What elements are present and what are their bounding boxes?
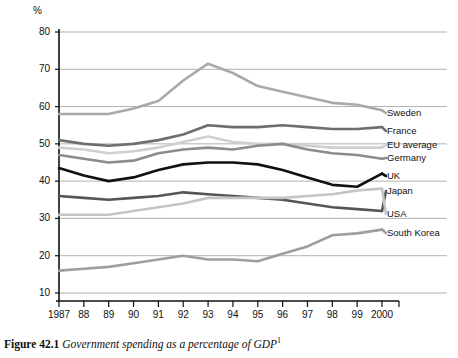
legend-label-uk: UK — [387, 171, 400, 181]
y-axis-tick-label: 50 — [28, 139, 50, 149]
series-line-uk — [59, 163, 382, 187]
legend-leader-germany — [382, 158, 386, 159]
series-line-south-korea — [59, 230, 382, 271]
legend-label-eu-average: EU average — [387, 140, 437, 150]
caption-title-text: Government spending as a percentage of G… — [62, 338, 277, 350]
legend-leader-eu-average — [382, 145, 386, 148]
caption-figure-number: Figure 42.1 — [4, 338, 59, 350]
legend-label-germany: Germany — [387, 153, 426, 163]
chart-plot-area: % 80706050403020101987888990919293949596… — [0, 0, 458, 318]
y-axis-tick-label: 10 — [28, 288, 50, 298]
y-axis-tick-label: 30 — [28, 213, 50, 223]
legend-leader-sweden — [382, 110, 386, 113]
y-axis-tick-label: 60 — [28, 102, 50, 112]
figure-caption: Figure 42.1 Government spending as a per… — [4, 336, 454, 350]
legend-label-sweden: Sweden — [387, 108, 421, 118]
caption-text: Government spending as a percentage of G… — [62, 338, 281, 350]
legend-leader-uk — [382, 174, 386, 176]
legend-label-france: France — [387, 126, 417, 136]
y-axis-tick-label: 20 — [28, 251, 50, 261]
x-axis-tick-label: 2000 — [367, 310, 397, 320]
legend-leader-south-korea — [382, 230, 386, 233]
y-axis-tick-label: 70 — [28, 64, 50, 74]
y-axis-tick-label: 40 — [28, 176, 50, 186]
legend-label-japan: Japan — [387, 186, 413, 196]
legend-leader-france — [382, 127, 386, 131]
caption-footnote-marker: 1 — [277, 336, 281, 345]
series-line-usa — [59, 189, 382, 215]
legend-label-south-korea: South Korea — [387, 228, 440, 238]
legend-label-usa: USA — [387, 209, 407, 219]
y-axis-tick-label: 80 — [28, 27, 50, 37]
figure-container: % 80706050403020101987888990919293949596… — [0, 0, 458, 358]
series-line-france — [59, 125, 382, 146]
